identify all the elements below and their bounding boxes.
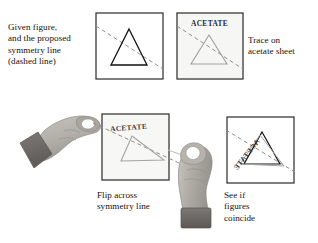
hand-pinching-up-icon: [168, 137, 230, 231]
hand-left-illustration: [18, 110, 102, 184]
panel-flipped-acetate: ACETATE: [101, 113, 170, 181]
overlay-drawing: [226, 116, 295, 184]
held-sheet-edge: [168, 150, 182, 155]
hand-cuff: [181, 208, 211, 228]
panel-figures-coincide: ACETATE: [226, 116, 295, 184]
panel-border: [96, 13, 163, 79]
panel-given-figure: [95, 12, 164, 80]
acetate-label: ACETATE: [191, 19, 228, 28]
caption-trace-on-acetate: Trace on acetate sheet: [248, 35, 314, 58]
pinch-gap: [186, 147, 200, 160]
pinch-gap: [82, 119, 95, 129]
caption-see-if-figures-coincide: See if figures coincide: [224, 190, 284, 224]
caption-given-figure: Given figure, and the proposed symmetry …: [8, 22, 92, 67]
hand-pinching-left-icon: [18, 110, 102, 184]
given-figure-drawing: [95, 12, 164, 80]
hand-right-illustration: [168, 137, 230, 231]
figure-canvas: Given figure, and the proposed symmetry …: [0, 0, 318, 243]
panel-border: [227, 117, 294, 183]
panel-acetate-trace: ACETATE: [176, 12, 244, 80]
